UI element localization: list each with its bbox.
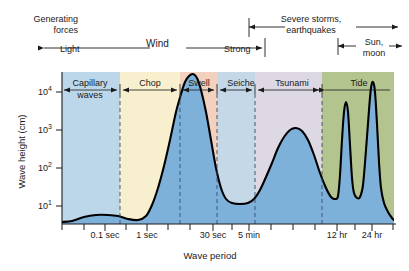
y-tick-label-1: 102 (22, 161, 52, 173)
region-label-swell: Swell (179, 78, 219, 88)
strong-label: Strong (224, 44, 251, 54)
y-tick-mantissa: 10 (38, 163, 48, 173)
y-tick-label-3: 104 (22, 85, 52, 97)
y-tick-mantissa: 10 (38, 201, 48, 211)
x-tick-label-5: 24 hr (349, 230, 395, 240)
y-tick-label-0: 101 (22, 199, 52, 211)
region-label-capillary-waves: waves (63, 90, 117, 100)
light-label: Light (60, 44, 80, 54)
region-label-seiche: Seiche (222, 78, 260, 88)
region-label-chop: Chop (126, 78, 174, 88)
x-tick-label-3: 5 min (226, 230, 272, 240)
y-axis-title: Wave height (cm) (16, 87, 27, 217)
y-tick-exponent: 3 (48, 123, 52, 130)
sunmoon-label-line1: Sun, (365, 37, 384, 47)
sun-moon-label: Sun, moon (356, 37, 392, 59)
x-axis-title: Wave period (140, 250, 280, 261)
region-label-capillary: Capillary (63, 78, 117, 88)
y-tick-mantissa: 10 (38, 87, 48, 97)
severe-label-line1: Severe storms, (281, 14, 342, 24)
region-label-tide: Tide (340, 78, 378, 88)
y-tick-exponent: 2 (48, 161, 52, 168)
y-tick-label-2: 103 (22, 123, 52, 135)
wave-spectrum-figure: Generating forces Light Wind Strong Seve… (0, 0, 409, 271)
y-tick-mantissa: 10 (38, 125, 48, 135)
region-label-tsunami: Tsunami (264, 78, 320, 88)
generating-forces-line1: Generating (33, 14, 78, 24)
x-tick-label-0: 0.1 sec (82, 230, 128, 240)
sunmoon-label-line2: moon (363, 48, 386, 58)
severe-storms-label: Severe storms, earthquakes (268, 14, 354, 36)
y-tick-exponent: 4 (48, 85, 52, 92)
severe-label-line2: earthquakes (286, 25, 336, 35)
y-axis-ticks (56, 92, 62, 206)
generating-forces-label: Generating forces (14, 14, 78, 36)
generating-forces-line2: forces (53, 25, 78, 35)
wind-label: Wind (146, 38, 169, 49)
y-tick-exponent: 1 (48, 199, 52, 206)
x-tick-label-1: 1 sec (124, 230, 170, 240)
